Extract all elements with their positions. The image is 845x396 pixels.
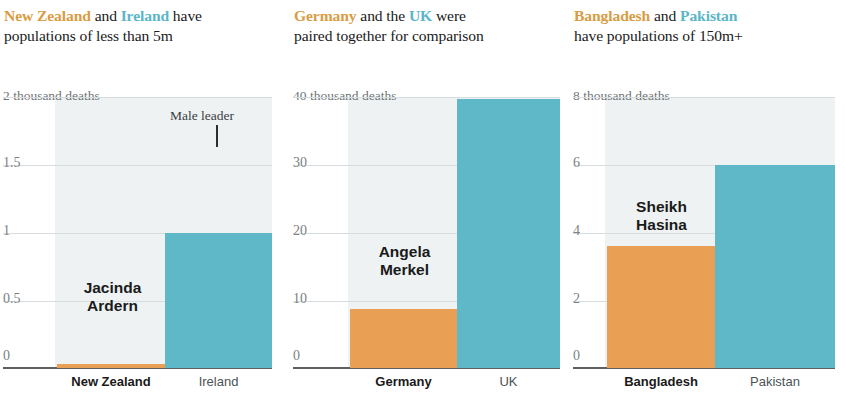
gridline-top-1 xyxy=(3,97,272,98)
annotation-male-leader: Male leader xyxy=(170,108,234,124)
y-tick-label-2-d: 0 xyxy=(293,348,300,364)
bar-germany[interactable] xyxy=(350,309,457,368)
bar-chart-2: 40 thousand deaths 30 20 10 0 Angela Mer… xyxy=(290,0,570,396)
y-tick-label-3-c: 2 xyxy=(573,291,580,307)
y-tick-label-2-c: 10 xyxy=(293,291,307,307)
bar-pakistan[interactable] xyxy=(715,165,835,368)
y-axis-top-label-1: 2 thousand deaths xyxy=(3,88,100,104)
y-axis-top-label-3: 8 thousand deaths xyxy=(573,88,670,104)
y-tick-label-2-b: 20 xyxy=(293,223,307,239)
chart-panel-germany-uk: Germany and the UK were paired together … xyxy=(290,0,570,396)
x-category-label-germany: Germany xyxy=(350,374,457,389)
leader-label-sheikh-hasina: Sheikh Hasina xyxy=(608,198,715,234)
y-tick-label-1-d: 0 xyxy=(3,348,10,364)
leader-label-jacinda-ardern: Jacinda Ardern xyxy=(60,279,165,315)
bar-uk[interactable] xyxy=(457,99,560,368)
y-tick-label-1-a: 1.5 xyxy=(3,155,21,171)
bar-bangladesh[interactable] xyxy=(607,246,715,368)
leader-label-angela-merkel: Angela Merkel xyxy=(352,243,457,279)
annotation-pointer-line xyxy=(216,125,218,147)
bar-ireland[interactable] xyxy=(165,233,272,368)
y-tick-label-3-a: 6 xyxy=(573,155,580,171)
y-tick-label-1-b: 1 xyxy=(3,223,10,239)
bar-chart-1: 2 thousand deaths 1.5 1 0.5 0 Jacinda Ar… xyxy=(0,0,290,396)
y-tick-label-2-a: 30 xyxy=(293,155,307,171)
bar-chart-3: 8 thousand deaths 6 4 2 0 Sheikh Hasina … xyxy=(570,0,845,396)
gridline-top-3 xyxy=(573,97,835,98)
gridline-1-5 xyxy=(3,165,272,166)
y-axis-top-label-2: 40 thousand deaths xyxy=(293,88,397,104)
y-tick-label-3-b: 4 xyxy=(573,223,580,239)
y-tick-label-3-d: 0 xyxy=(573,348,580,364)
x-category-label-new-zealand: New Zealand xyxy=(57,374,165,389)
x-category-label-bangladesh: Bangladesh xyxy=(607,374,715,389)
chart-panel-new-zealand-ireland: New Zealand and Ireland have populations… xyxy=(0,0,290,396)
bar-new-zealand[interactable] xyxy=(57,364,165,368)
x-category-label-ireland: Ireland xyxy=(165,374,272,389)
chart-panel-bangladesh-pakistan: Bangladesh and Pakistan have populations… xyxy=(570,0,845,396)
gridline-top-2 xyxy=(293,97,560,98)
small-multiples-chart-group: New Zealand and Ireland have populations… xyxy=(0,0,845,396)
x-category-label-pakistan: Pakistan xyxy=(715,374,835,389)
x-category-label-uk: UK xyxy=(457,374,560,389)
y-tick-label-1-c: 0.5 xyxy=(3,291,21,307)
